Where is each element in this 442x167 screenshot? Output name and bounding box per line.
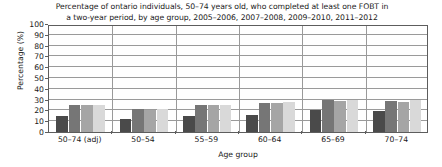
chart-title-line-1: Percentage of ontario individuals, 50–74…	[22, 2, 422, 13]
bar	[120, 119, 132, 132]
y-tick-label: 40	[20, 86, 44, 94]
bar	[410, 100, 422, 132]
plot-area	[48, 25, 428, 133]
y-tick-label: 50	[20, 75, 44, 83]
y-tick-label: 0	[20, 129, 44, 137]
bar	[259, 103, 271, 132]
bar-group	[302, 26, 365, 132]
bar	[157, 109, 169, 132]
bar-group	[112, 26, 175, 132]
bar	[69, 105, 81, 132]
bar	[183, 116, 195, 132]
bar-group	[239, 26, 302, 132]
bar	[81, 105, 93, 132]
y-tick-label: 20	[20, 107, 44, 115]
bar	[398, 102, 410, 132]
bar	[195, 105, 207, 132]
y-tick-label: 30	[20, 97, 44, 105]
bar-group	[366, 26, 429, 132]
y-axis-tick-labels: 1009080706050403020100	[18, 25, 44, 133]
y-tick-label: 80	[20, 43, 44, 51]
bar	[334, 101, 346, 132]
y-tick-label: 100	[20, 21, 44, 29]
bar	[271, 103, 283, 132]
bar	[310, 110, 322, 132]
x-tick-mark	[175, 131, 176, 134]
bar	[385, 101, 397, 132]
y-tick-label: 70	[20, 53, 44, 61]
y-tick-label: 90	[20, 32, 44, 40]
bar-group	[49, 26, 112, 132]
x-tick-mark	[238, 131, 239, 134]
chart-figure: Percentage of ontario individuals, 50–74…	[0, 0, 442, 167]
y-tick-label: 10	[20, 118, 44, 126]
x-axis-tick-labels: 50–74 (adj)50–5455–5960–6465–6970–74	[48, 135, 428, 147]
bar	[322, 100, 334, 132]
bar	[220, 105, 232, 132]
bar	[373, 111, 385, 132]
bar	[347, 100, 359, 132]
x-tick-label: 50–74 (adj)	[48, 135, 111, 144]
y-tick-label: 60	[20, 64, 44, 72]
bar	[283, 102, 295, 132]
chart-title: Percentage of ontario individuals, 50–74…	[22, 2, 422, 23]
x-tick-label: 65–69	[301, 135, 364, 144]
x-tick-label: 60–64	[238, 135, 301, 144]
bar	[144, 110, 156, 132]
bar	[246, 115, 258, 132]
chart-title-line-2: a two-year period, by age group, 2005–20…	[22, 13, 422, 24]
bar	[208, 105, 220, 132]
x-tick-label: 70–74	[365, 135, 428, 144]
bar	[132, 109, 144, 132]
bar-group	[176, 26, 239, 132]
x-tick-mark	[301, 131, 302, 134]
x-tick-label: 55–59	[175, 135, 238, 144]
x-tick-mark	[365, 131, 366, 134]
x-tick-mark	[111, 131, 112, 134]
bar	[93, 105, 105, 132]
bar	[56, 116, 68, 132]
x-tick-label: 50–54	[111, 135, 174, 144]
x-axis-title: Age group	[48, 150, 428, 159]
